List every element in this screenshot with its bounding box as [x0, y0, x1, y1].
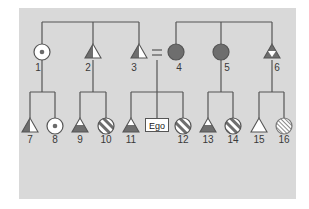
label-6: 6 — [274, 63, 280, 73]
label-3: 3 — [131, 63, 137, 73]
label-12: 12 — [177, 135, 188, 145]
person-15-triangle-white-icon — [251, 118, 267, 132]
person-10-circle-striped-icon — [98, 118, 114, 134]
label-13: 13 — [202, 135, 213, 145]
person-16-circle-hatched-icon — [276, 118, 292, 134]
person-1-circle-dot-icon — [34, 44, 50, 60]
person-4-circle-dark-icon — [168, 44, 184, 60]
label-14: 14 — [227, 135, 238, 145]
person-11-triangle-dark-bottom-icon — [123, 118, 139, 132]
marriage-sign — [152, 50, 162, 55]
person-8-circle-dot-icon — [47, 118, 63, 134]
person-12-circle-striped-icon — [175, 118, 191, 134]
person-7-triangle-half-icon — [22, 118, 38, 132]
label-9: 9 — [77, 135, 83, 145]
person-6-triangle-inverted-icon — [264, 44, 280, 58]
label-16: 16 — [278, 135, 289, 145]
person-9-triangle-dark-bottom-icon — [72, 118, 88, 132]
person-14-circle-striped-icon — [225, 118, 241, 134]
label-1: 1 — [35, 63, 41, 73]
kinship-lines — [30, 22, 284, 118]
label-8: 8 — [52, 135, 58, 145]
pedigree-diagram — [0, 0, 309, 209]
label-15: 15 — [253, 135, 264, 145]
label-11: 11 — [126, 135, 136, 145]
label-2: 2 — [85, 63, 91, 73]
person-5-circle-dark-icon — [213, 44, 229, 60]
person-3-triangle-half-icon — [131, 44, 147, 58]
label-7: 7 — [27, 135, 33, 145]
ego-box: Ego — [145, 118, 169, 132]
person-2-triangle-half-icon — [85, 44, 101, 58]
label-10: 10 — [100, 135, 111, 145]
label-5: 5 — [224, 63, 230, 73]
label-4: 4 — [176, 63, 182, 73]
person-13-triangle-dark-bottom-icon — [200, 118, 216, 132]
